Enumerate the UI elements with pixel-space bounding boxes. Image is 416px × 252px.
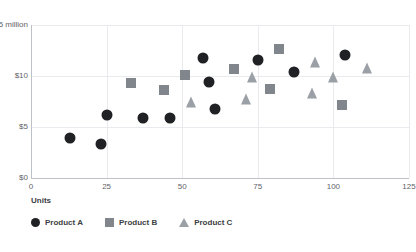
x-axis-line — [31, 178, 409, 179]
chart-legend: Product AProduct BProduct C — [31, 218, 232, 227]
data-point-product-b — [265, 84, 275, 94]
gridline-horizontal — [31, 76, 409, 77]
data-point-product-b — [274, 44, 284, 54]
plot-area — [31, 25, 409, 178]
legend-item-product-c[interactable]: Product C — [179, 218, 232, 227]
legend-label: Product A — [45, 219, 83, 227]
data-point-product-c — [241, 94, 251, 105]
data-point-product-b — [126, 78, 136, 88]
legend-item-product-b[interactable]: Product B — [105, 218, 157, 227]
y-axis-tick-label: $5 — [19, 123, 28, 131]
data-point-product-c — [362, 62, 372, 73]
data-point-product-b — [159, 85, 169, 95]
data-point-product-a — [210, 103, 221, 114]
data-point-product-a — [165, 112, 176, 123]
gridline-horizontal — [31, 25, 409, 26]
legend-item-product-a[interactable]: Product A — [31, 218, 83, 227]
data-point-product-a — [65, 133, 76, 144]
legend-label: Product C — [194, 219, 232, 227]
x-axis-tick-label: 50 — [178, 183, 187, 191]
legend-circle-icon — [31, 218, 40, 227]
gridline-vertical — [107, 25, 108, 178]
x-axis-tick-label: 75 — [253, 183, 262, 191]
legend-triangle-icon — [179, 218, 189, 227]
gridline-vertical — [333, 25, 334, 178]
data-point-product-c — [328, 72, 338, 83]
data-point-product-a — [252, 54, 263, 65]
data-point-product-a — [198, 52, 209, 63]
data-point-product-a — [137, 112, 148, 123]
x-axis-tick-label: 125 — [402, 183, 415, 191]
x-axis-tick-label: 25 — [102, 183, 111, 191]
data-point-product-a — [340, 49, 351, 60]
gridline-vertical — [409, 25, 410, 178]
data-point-product-b — [337, 100, 347, 110]
gridline-horizontal — [31, 127, 409, 128]
data-point-product-b — [229, 64, 239, 74]
y-axis-labels: $0$5$10$15 million — [0, 0, 28, 180]
data-point-product-a — [101, 109, 112, 120]
y-axis-tick-label: $15 million — [0, 21, 28, 29]
gridline-vertical — [258, 25, 259, 178]
x-axis-title: Units — [31, 196, 51, 205]
y-axis-line — [31, 25, 32, 178]
x-axis-tick-label: 100 — [327, 183, 340, 191]
y-axis-tick-label: $10 — [15, 72, 28, 80]
legend-square-icon — [105, 218, 114, 227]
data-point-product-c — [247, 72, 257, 83]
data-point-product-c — [186, 96, 196, 107]
data-point-product-c — [310, 56, 320, 67]
data-point-product-a — [204, 77, 215, 88]
y-axis-tick-label: $0 — [19, 174, 28, 182]
data-point-product-a — [95, 139, 106, 150]
data-point-product-a — [289, 66, 300, 77]
data-point-product-b — [180, 70, 190, 80]
legend-label: Product B — [119, 219, 157, 227]
x-axis-tick-label: 0 — [29, 183, 33, 191]
data-point-product-c — [307, 88, 317, 99]
gridline-vertical — [182, 25, 183, 178]
